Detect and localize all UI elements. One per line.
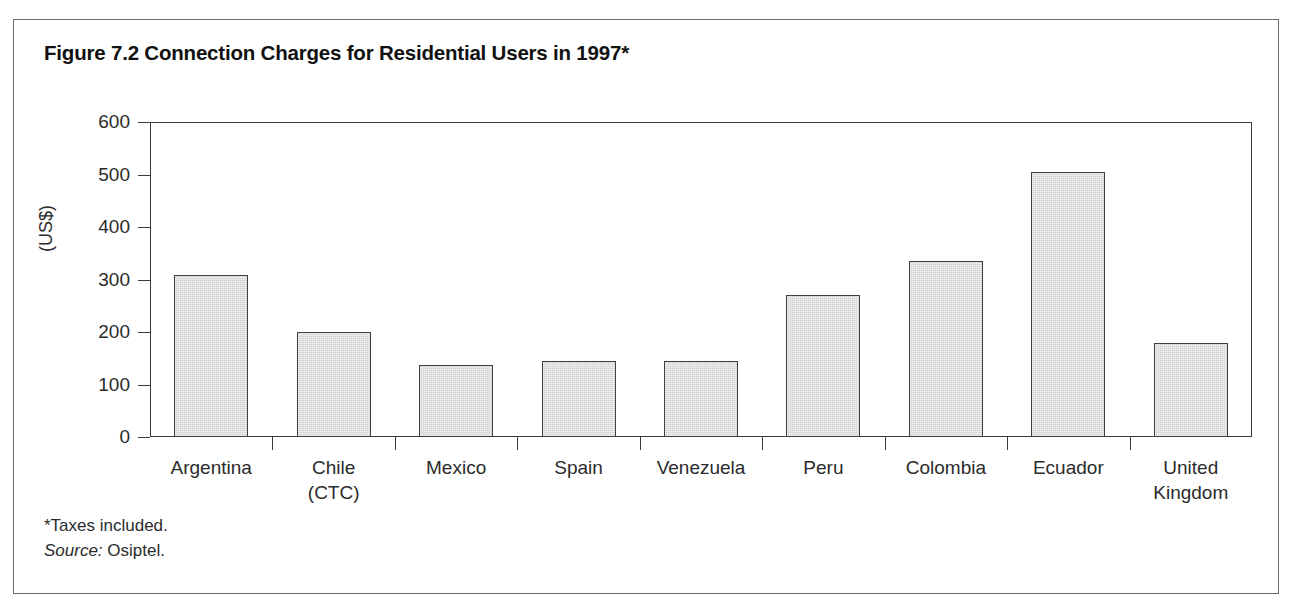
x-axis-tick-label-line: Kingdom xyxy=(1153,480,1228,505)
x-axis-tick-label: Colombia xyxy=(906,455,986,480)
bar-slot xyxy=(395,122,517,437)
x-axis-tick-label: Venezuela xyxy=(657,455,746,480)
bar-slot xyxy=(150,122,272,437)
bar-slot xyxy=(1007,122,1129,437)
y-axis-tick-label: 400 xyxy=(70,216,130,238)
y-axis-tick-mark xyxy=(138,280,150,281)
bar-slot xyxy=(272,122,394,437)
bar[interactable] xyxy=(174,275,248,437)
y-axis-tick-mark xyxy=(138,332,150,333)
bar[interactable] xyxy=(1031,172,1105,437)
x-axis-tick-label: Spain xyxy=(554,455,603,480)
bars-layer xyxy=(150,122,1252,437)
figure-notes: *Taxes included. Source: Osiptel. xyxy=(44,513,168,563)
x-axis-tick-label: Mexico xyxy=(426,455,486,480)
figure-title: Figure 7.2 Connection Charges for Reside… xyxy=(44,41,629,65)
bar[interactable] xyxy=(786,295,860,437)
y-axis-tick-mark xyxy=(138,175,150,176)
note-taxes: *Taxes included. xyxy=(44,513,168,538)
y-axis-tick-mark xyxy=(138,122,150,123)
bar-slot xyxy=(517,122,639,437)
bar-slot xyxy=(1130,122,1252,437)
x-axis-tick-mark xyxy=(1130,437,1131,450)
x-axis-tick-mark xyxy=(762,437,763,450)
bar[interactable] xyxy=(419,365,493,437)
bar[interactable] xyxy=(664,361,738,437)
bar[interactable] xyxy=(542,361,616,437)
y-axis-title: (US$) xyxy=(36,205,57,252)
bar-slot xyxy=(885,122,1007,437)
bar[interactable] xyxy=(297,332,371,437)
y-axis-tick-mark xyxy=(138,227,150,228)
x-axis-tick-mark xyxy=(885,437,886,450)
y-axis-tick-label: 100 xyxy=(70,374,130,396)
note-source-prefix: Source: xyxy=(44,541,103,560)
x-axis-tick-label: Argentina xyxy=(171,455,252,480)
x-axis-tick-mark xyxy=(272,437,273,450)
y-axis-tick-mark xyxy=(138,437,150,438)
x-axis-tick-mark xyxy=(1007,437,1008,450)
note-source-value: Osiptel. xyxy=(107,541,165,560)
x-axis-tick-label: Ecuador xyxy=(1033,455,1104,480)
figure-page: Figure 7.2 Connection Charges for Reside… xyxy=(0,0,1291,613)
bar[interactable] xyxy=(1154,343,1228,438)
x-axis-tick-mark xyxy=(395,437,396,450)
x-axis-tick-label: UnitedKingdom xyxy=(1153,455,1228,505)
bar-slot xyxy=(762,122,884,437)
y-axis-tick-label: 0 xyxy=(70,426,130,448)
bar-slot xyxy=(640,122,762,437)
x-axis-tick-mark xyxy=(517,437,518,450)
bar[interactable] xyxy=(909,261,983,437)
note-source: Source: Osiptel. xyxy=(44,538,168,563)
x-axis-tick-label-line: (CTC) xyxy=(308,480,360,505)
y-axis-tick-label: 500 xyxy=(70,164,130,186)
x-axis-tick-label: Chile(CTC) xyxy=(308,455,360,505)
y-axis-tick-label: 200 xyxy=(70,321,130,343)
y-axis-tick-mark xyxy=(138,385,150,386)
y-axis-tick-label: 300 xyxy=(70,269,130,291)
x-axis-tick-label: Peru xyxy=(803,455,843,480)
x-axis-tick-mark xyxy=(640,437,641,450)
y-axis-tick-label: 600 xyxy=(70,111,130,133)
